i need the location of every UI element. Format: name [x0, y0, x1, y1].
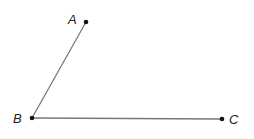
ray-bc: [32, 118, 222, 119]
point-a: [84, 20, 89, 25]
label-a: A: [67, 12, 77, 27]
label-c: C: [229, 112, 239, 127]
ray-ba: [32, 22, 86, 118]
label-b: B: [13, 111, 22, 126]
point-c: [220, 117, 225, 122]
point-b: [30, 116, 35, 121]
angle-diagram: A B C: [0, 0, 254, 139]
